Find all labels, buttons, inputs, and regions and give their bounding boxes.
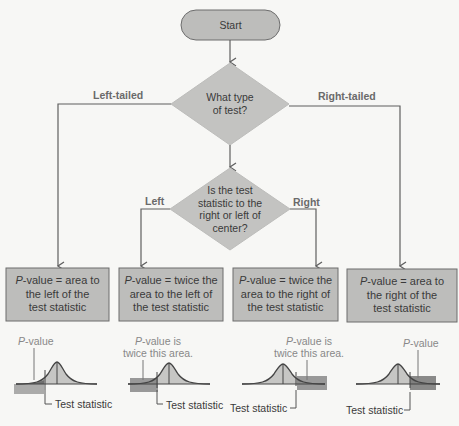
test-statistic-label-1: Test statistic [55,398,112,410]
test-statistic-label-4: Test statistic [346,404,403,416]
label-left-tailed: Left-tailed [93,89,143,101]
decision2-line: statistic to the [198,197,262,210]
label-right: Right [293,196,320,208]
decision2-line: center? [212,222,247,235]
normal-curve-two-tailed-right [242,360,327,408]
connector-left-tailed [58,104,171,266]
note-p-value-4: P-value [403,337,439,349]
outcome-text-right-tailed: P-value = area to the right of the test … [347,269,457,322]
connector-right [290,209,316,266]
test-statistic-label-3: Test statistic [230,402,287,414]
start-label: Start [181,10,280,40]
decision2-line: Is the test [207,184,253,197]
label-right-tailed: Right-tailed [318,90,376,102]
outcome-text-left-tailed: P-value = area to the left of the test s… [6,268,109,321]
note-p-value-3: P-value is twice this area. [269,335,349,359]
outcome-text-two-tailed-right: P-value = twice the area to the right of… [233,268,338,321]
label-left: Left [145,195,164,207]
normal-curve-left-tailed [14,348,97,404]
decision1-line: What type [206,91,253,104]
normal-curve-two-tailed-left [128,360,210,404]
decision-test-type-text: What type of test? [185,90,275,118]
normal-curve-right-tailed [356,350,440,410]
outcome-text-two-tailed-left: P-value = twice the area to the left of … [119,268,223,321]
decision2-line: right or left of [199,209,260,222]
connector-left [141,209,170,266]
note-p-value-1: P-value [18,335,54,347]
note-p-value-2: P-value is twice this area. [118,335,198,359]
decision-direction-text: Is the test statistic to the right or le… [180,182,280,236]
connector-right-tailed [289,106,400,266]
test-statistic-label-2: Test statistic [166,399,223,411]
decision1-line: of test? [213,104,247,117]
